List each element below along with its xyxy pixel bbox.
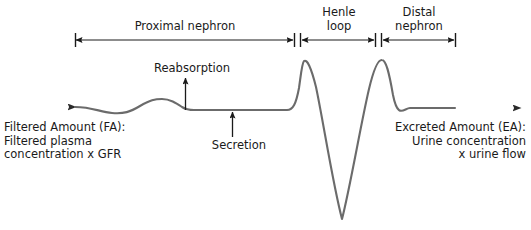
diagram-canvas: [0, 0, 531, 230]
segment-bar-henle-loop: [301, 33, 376, 47]
secretion-label: Secretion: [206, 139, 272, 153]
excreted-amount-label: Excreted Amount (EA): Urine concentratio…: [330, 121, 526, 162]
nephron-handling-diagram: Proximal nephron Henle loop Distal nephr…: [0, 0, 531, 230]
segment-label-distal-nephron: Distal nephron: [380, 6, 458, 33]
segment-bar-distal-nephron: [382, 33, 456, 47]
segment-bar-proximal-nephron: [76, 33, 295, 47]
segment-label-proximal-nephron: Proximal nephron: [75, 20, 295, 34]
filtered-amount-label: Filtered Amount (FA): Filtered plasma co…: [4, 121, 204, 162]
segment-label-henle-loop: Henle loop: [303, 6, 375, 33]
reabsorption-label: Reabsorption: [146, 62, 238, 76]
